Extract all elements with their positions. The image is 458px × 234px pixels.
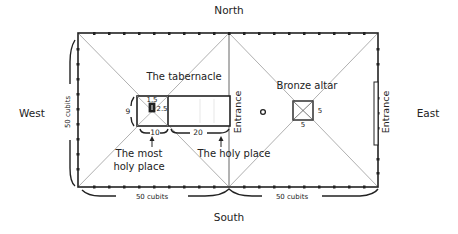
label-holy-place: The holy place [196,148,270,159]
label-east: East [417,107,440,119]
label-most-holy-place-line2: holy place [113,161,164,172]
label-most-holy-length: 10 [150,128,160,137]
label-tabernacle-height: 9 [126,107,131,116]
label-altar-bottom: 5 [301,121,305,129]
label-ark-side: 2.5 [156,105,167,113]
label-most-holy-place-line1: The most [115,148,163,159]
east-entrance-gate [374,82,378,145]
label-tabernacle: The tabernacle [145,71,221,82]
tabernacle-courtyard-diagram: North South West East 50 cubits 50 cubit… [0,0,458,234]
label-entrance-middle: Entrance [232,91,243,134]
label-courtyard-width-left: 50 cubits [136,193,169,201]
bronze-altar [293,101,313,120]
label-altar-side: 5 [318,107,322,115]
laver-icon [261,110,266,115]
label-courtyard-width-right: 50 cubits [276,193,309,201]
label-bronze-altar: Bronze altar [277,80,339,91]
label-north: North [214,4,243,16]
label-holy-length: 20 [193,128,203,137]
label-ark-top: 1.5 [146,96,157,104]
label-courtyard-height: 50 cubits [64,96,72,129]
label-south: South [214,211,245,223]
pointer-arrows [150,136,224,147]
label-entrance-east: Entrance [380,91,391,134]
label-west: West [19,107,45,119]
